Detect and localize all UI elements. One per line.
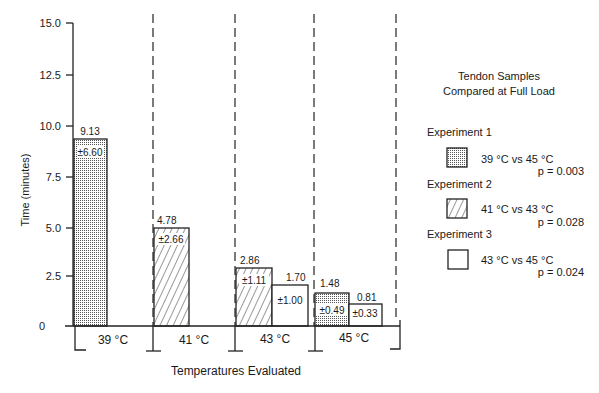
legend-entry-p: p = 0.028 — [538, 216, 584, 228]
y-axis: 15.0 12.5 10.0 7.5 5.0 2.5 0 Time (minut… — [19, 17, 73, 332]
y-axis-label: Time (minutes) — [19, 154, 31, 227]
y-tick: 12.5 — [40, 69, 61, 81]
legend-entry-name: Experiment 1 — [427, 126, 492, 138]
legend-title-line2: Compared at Full Load — [443, 85, 555, 97]
chart: 15.0 12.5 10.0 7.5 5.0 2.5 0 Time (minut… — [0, 0, 599, 393]
sd-label: ±2.66 — [159, 234, 184, 245]
legend-entry-name: Experiment 3 — [427, 228, 492, 240]
value-label: 4.78 — [157, 215, 177, 226]
value-label: 9.13 — [80, 126, 100, 137]
sd-label: ±1.00 — [278, 295, 303, 306]
sd-label: ±0.49 — [320, 305, 345, 316]
x-tick: 43 °C — [260, 332, 290, 346]
y-tick: 7.5 — [46, 171, 61, 183]
x-tick: 39 °C — [98, 333, 128, 347]
y-tick: 10.0 — [40, 120, 61, 132]
legend-entry-p: p = 0.003 — [538, 165, 584, 177]
legend-swatch-white — [448, 250, 468, 269]
legend-entry-comparison: 39 °C vs 45 °C — [481, 153, 553, 165]
sd-label: ±6.60 — [78, 147, 103, 158]
legend-title-line1: Tendon Samples — [458, 70, 540, 82]
y-tick: 0 — [39, 320, 45, 332]
sd-label: ±1.11 — [242, 275, 267, 286]
legend-entry-p: p = 0.024 — [538, 266, 584, 278]
y-tick: 15.0 — [40, 17, 61, 29]
x-axis-label: Temperatures Evaluated — [171, 364, 301, 378]
value-label: 1.70 — [286, 272, 306, 283]
value-labels: 9.13 ±6.60 4.78 ±2.66 2.86 ±1.11 1.70 ±1… — [77, 126, 378, 319]
sd-label: ±0.33 — [353, 308, 378, 319]
bar-39c — [74, 139, 107, 326]
value-label: 2.86 — [240, 255, 260, 266]
legend-entry-name: Experiment 2 — [427, 178, 492, 190]
legend: Tendon Samples Compared at Full Load Exp… — [427, 70, 584, 278]
bars — [74, 139, 382, 326]
x-tick: 45 °C — [339, 331, 369, 345]
legend-entry-comparison: 43 °C vs 45 °C — [481, 254, 553, 266]
value-label: 0.81 — [357, 292, 377, 303]
legend-swatch-hatched — [447, 199, 467, 218]
legend-swatch-dotted — [447, 148, 467, 167]
y-tick: 2.5 — [46, 270, 61, 282]
x-tick-labels: 39 °C 41 °C 43 °C 45 °C — [98, 331, 369, 347]
value-label: 1.48 — [320, 278, 340, 289]
legend-entry-comparison: 41 °C vs 43 °C — [481, 203, 553, 215]
y-tick: 5.0 — [46, 222, 61, 234]
x-tick: 41 °C — [179, 333, 209, 347]
